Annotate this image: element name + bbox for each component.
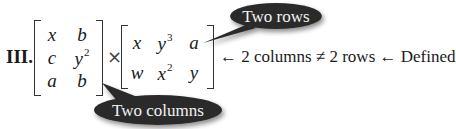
cell-base: a	[189, 32, 199, 53]
right-matrix-cell: x	[133, 32, 141, 54]
callout-two-columns-label: Two columns	[112, 101, 204, 120]
cell-base: b	[77, 70, 87, 91]
cell-base: x	[48, 24, 56, 45]
problem-number: III.	[6, 46, 33, 68]
left-matrix-cell: c	[48, 47, 56, 69]
right-matrix-cell: y	[190, 62, 198, 84]
cell-base: y	[75, 48, 83, 69]
right-matrix-cell: y3	[158, 31, 173, 55]
left-matrix-close-bracket	[96, 20, 103, 96]
right-matrix-cell: w	[131, 62, 144, 84]
left-matrix-cell: y2	[75, 46, 90, 70]
cell-exponent: 2	[84, 46, 90, 58]
cell-exponent: 2	[167, 61, 173, 73]
cell-base: w	[131, 62, 144, 83]
callout-two-rows-label: Two rows	[242, 7, 309, 26]
cell-exponent: 3	[167, 31, 173, 43]
cell-base: a	[47, 70, 57, 91]
multiply-operator: ×	[107, 46, 122, 67]
left-matrix-cell: b	[77, 70, 87, 92]
cell-base: c	[48, 47, 56, 68]
left-matrix-cell: x	[48, 24, 56, 46]
left-matrix-cell: b	[77, 24, 87, 46]
cell-base: y	[190, 62, 198, 83]
cell-base: y	[158, 33, 166, 54]
right-matrix-cell: x2	[158, 61, 173, 85]
cell-base: b	[77, 24, 87, 45]
left-matrix-cell: a	[47, 70, 57, 92]
definition-note: ← 2 columns ≠ 2 rows ← Defined	[220, 47, 456, 67]
left-matrix-open-bracket	[34, 20, 41, 96]
cell-base: x	[133, 32, 141, 53]
cell-base: x	[158, 63, 166, 84]
right-matrix-cell: a	[189, 32, 199, 54]
right-matrix-close-bracket	[207, 25, 214, 89]
right-matrix-open-bracket	[121, 25, 128, 89]
